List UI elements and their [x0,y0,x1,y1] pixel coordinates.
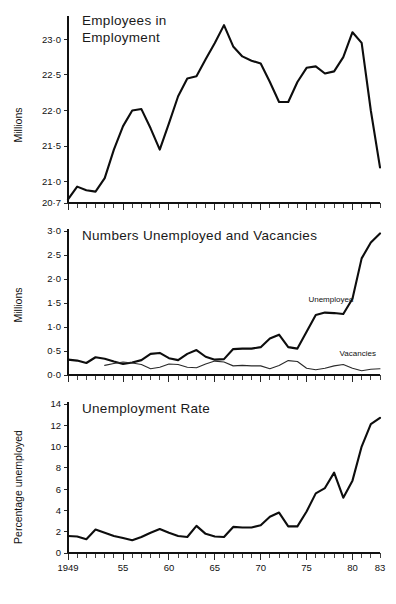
panel-1-title: Numbers Unemployed and Vacancies [82,228,317,243]
ytick-label: 0·5 [47,345,61,356]
ytick-label: 1·5 [47,297,61,308]
ytick-label: 23·0 [42,34,61,45]
ytick-label: 12 [50,420,61,431]
ytick-label: 1·0 [47,321,61,332]
ytick-label: 2·0 [47,273,61,284]
panel-2-title: Unemployment Rate [82,401,210,416]
series-label-vacancies: Vacancies [340,349,376,358]
ytick-label: 10 [50,441,61,452]
xtick-label: 75 [301,562,312,573]
ytick-label: 6 [56,484,61,495]
panel-2-ylabel: Percentage unemployed [12,430,24,544]
panel-0-ylabel: Millions [12,107,24,142]
ytick-label: 3·0 [47,225,61,236]
ytick-label: 8 [56,462,61,473]
xtick-label: 80 [347,562,358,573]
ytick-label: 21·5 [42,140,61,151]
ytick-label: 2 [56,526,61,537]
xtick-label: 60 [164,562,175,573]
xtick-label: 70 [255,562,266,573]
ytick-label: 20·7 [42,197,61,208]
ytick-label: 0·0 [47,369,61,380]
xtick-label: 83 [375,562,386,573]
ytick-label: 21·0 [42,176,61,187]
panel-0-title-line1: Employees in [82,13,167,28]
xtick-label: 1949 [57,562,78,573]
figure-container: 23·022·522·021·521·020·7 Millions Employ… [0,0,396,604]
ytick-label: 4 [56,505,61,516]
panel-0-title-line2: Employment [82,30,160,45]
xtick-label: 55 [118,562,129,573]
statistics-figure: 23·022·522·021·521·020·7 Millions Employ… [0,0,396,604]
series-label-unemployed: Unemployed [308,295,353,304]
ytick-label: 2·5 [47,249,61,260]
panel-1-ylabel: Millions [12,287,24,322]
ytick-label: 22·0 [42,105,61,116]
xtick-label: 65 [210,562,221,573]
ytick-label: 0 [56,547,61,558]
ytick-label: 14 [50,398,61,409]
ytick-label: 22·5 [42,69,61,80]
